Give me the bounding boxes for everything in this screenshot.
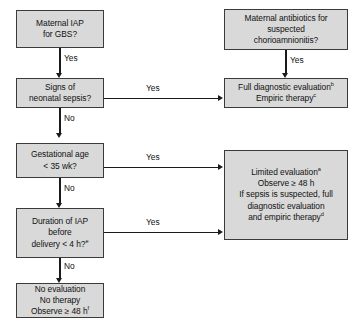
connector-duration-to-noeval-arrow	[56, 278, 62, 283]
node-gestational-age-label: Gestational age < 35 wk?	[17, 149, 103, 171]
connector-sepsis-to-full-line	[104, 98, 219, 99]
edge-label-gestational-to-duration: No	[64, 183, 75, 193]
connector-sepsis-to-full-arrow	[218, 95, 223, 101]
connector-gestational-to-limited-line	[104, 167, 219, 168]
connector-gestational-to-duration-line	[59, 178, 60, 203]
node-limited-evaluation-label: Limited evaluationa Observe ≥ 48 h If se…	[225, 167, 347, 223]
edge-label-sepsis-to-full: Yes	[146, 83, 160, 93]
node-no-evaluation-label: No evaluation No therapy Observe ≥ 48 hf	[17, 284, 103, 318]
edge-label-sepsis-to-gestational: No	[64, 113, 75, 123]
connector-duration-to-limited-arrow	[218, 229, 223, 235]
node-maternal-iap-gbs-label: Maternal IAP for GBS?	[17, 18, 103, 40]
connector-chorio-to-full-line	[285, 50, 286, 73]
edge-label-iap-to-sepsis: Yes	[64, 53, 78, 63]
flowchart-canvas: Maternal IAP for GBS? Maternal antibioti…	[0, 0, 359, 321]
node-full-diagnostic-evaluation: Full diagnostic evaluationb Empiric ther…	[224, 78, 348, 108]
connector-sepsis-to-gestational-arrow	[56, 133, 62, 138]
node-signs-neonatal-sepsis-label: Signs of neonatal sepsis?	[17, 82, 103, 104]
connector-sepsis-to-gestational-line	[59, 108, 60, 133]
node-no-evaluation: No evaluation No therapy Observe ≥ 48 hf	[16, 283, 104, 318]
edge-label-duration-to-noeval: No	[64, 261, 75, 271]
node-duration-of-iap-label: Duration of IAP before delivery < 4 h?e	[17, 216, 103, 250]
connector-duration-to-noeval-line	[59, 258, 60, 278]
edge-label-chorio-to-full: Yes	[290, 55, 304, 65]
node-gestational-age: Gestational age < 35 wk?	[16, 143, 104, 178]
edge-label-gestational-to-limited: Yes	[146, 152, 160, 162]
connector-gestational-to-limited-arrow	[218, 164, 223, 170]
connector-duration-to-limited-line	[104, 232, 219, 233]
node-signs-neonatal-sepsis: Signs of neonatal sepsis?	[16, 78, 104, 108]
connector-iap-to-sepsis-line	[59, 48, 60, 73]
node-maternal-antibiotics-chorioamnionitis: Maternal antibiotics for suspected chori…	[224, 9, 348, 50]
connector-iap-to-sepsis-arrow	[56, 73, 62, 78]
node-maternal-iap-gbs: Maternal IAP for GBS?	[16, 10, 104, 48]
edge-label-duration-to-limited: Yes	[146, 217, 160, 227]
connector-gestational-to-duration-arrow	[56, 203, 62, 208]
node-duration-of-iap: Duration of IAP before delivery < 4 h?e	[16, 208, 104, 258]
node-maternal-antibiotics-chorioamnionitis-label: Maternal antibiotics for suspected chori…	[225, 13, 347, 47]
node-limited-evaluation: Limited evaluationa Observe ≥ 48 h If se…	[224, 150, 348, 240]
node-full-diagnostic-evaluation-label: Full diagnostic evaluationb Empiric ther…	[225, 82, 347, 104]
connector-chorio-to-full-arrow	[282, 73, 288, 78]
